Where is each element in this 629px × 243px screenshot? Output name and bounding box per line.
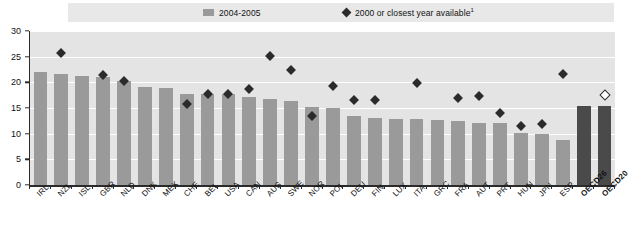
x-tick-mark-esp xyxy=(551,186,552,189)
x-tick-mark-fin xyxy=(363,186,364,189)
plot-area xyxy=(29,31,615,185)
diamond-marker-oecd20 xyxy=(599,90,610,101)
diamond-marker-can xyxy=(244,84,254,94)
y-tick-label-5: 5 xyxy=(16,154,21,164)
bar-esp xyxy=(556,140,570,185)
legend-bar-swatch-icon xyxy=(203,9,214,16)
legend-item-diamond: 2000 or closest year available1 xyxy=(343,3,474,22)
bar-can xyxy=(242,97,256,185)
x-tick-mark-end xyxy=(614,186,615,189)
x-tick-mark-bel xyxy=(196,186,197,189)
x-tick-mark-mex xyxy=(154,186,155,189)
bar-hun xyxy=(514,133,528,185)
x-tick-mark-fra xyxy=(447,186,448,189)
bar-deu xyxy=(347,116,361,185)
x-tick-mark-swe xyxy=(280,186,281,189)
diamond-marker-aut xyxy=(474,91,484,101)
bar-aus xyxy=(263,99,277,185)
y-axis: 051015202530 xyxy=(0,31,29,185)
x-axis-labels: IRLNZLISLGBRNLDDNKMEXCHEBELUSACANAUSSWEN… xyxy=(0,186,618,243)
y-tick-label-10: 10 xyxy=(11,129,21,139)
gridline-y-25 xyxy=(30,57,615,58)
legend-item-bar: 2004-2005 xyxy=(203,3,261,22)
bar-nld xyxy=(117,81,131,185)
bar-usa xyxy=(222,94,236,185)
x-tick-mark-nzl xyxy=(50,186,51,189)
y-tick-label-15: 15 xyxy=(11,103,21,113)
x-tick-mark-ita xyxy=(405,186,406,189)
x-tick-mark-aut xyxy=(468,186,469,189)
diamond-marker-prt xyxy=(495,108,505,118)
diamond-marker-jpn xyxy=(537,119,547,129)
bar-jpn xyxy=(535,134,549,185)
diamond-marker-fra xyxy=(453,93,463,103)
x-tick-mark-nor xyxy=(301,186,302,189)
y-tick-label-30: 30 xyxy=(11,26,21,36)
x-tick-mark-deu xyxy=(342,186,343,189)
diamond-marker-swe xyxy=(286,65,296,75)
x-tick-mark-prt xyxy=(489,186,490,189)
diamond-marker-fin xyxy=(370,95,380,105)
diamond-marker-deu xyxy=(349,95,359,105)
bar-dnk xyxy=(138,87,152,185)
x-tick-mark-gbr xyxy=(92,186,93,189)
bar-pol xyxy=(326,108,340,186)
bar-grc xyxy=(431,120,445,185)
x-tick-mark-pol xyxy=(322,186,323,189)
legend-bar-label: 2004-2005 xyxy=(219,8,261,18)
x-tick-mark-nld xyxy=(113,186,114,189)
bar-lux xyxy=(389,119,403,185)
bar-aut xyxy=(472,123,486,185)
x-tick-mark-che xyxy=(175,186,176,189)
chart-legend: 2004-2005 2000 or closest year available… xyxy=(68,3,614,22)
bar-prt xyxy=(493,123,507,185)
x-tick-mark-oecd20 xyxy=(593,186,594,189)
bar-irl xyxy=(34,72,48,185)
x-tick-mark-can xyxy=(238,186,239,189)
diamond-marker-esp xyxy=(558,69,568,79)
x-tick-mark-dnk xyxy=(133,186,134,189)
bar-mex xyxy=(159,88,173,185)
x-axis-label-irl: IRL xyxy=(35,183,51,199)
diamond-marker-hun xyxy=(516,122,526,132)
x-tick-mark-aus xyxy=(259,186,260,189)
diamond-marker-ita xyxy=(412,78,422,88)
x-tick-mark-oecd26 xyxy=(572,186,573,189)
bar-gbr xyxy=(96,77,110,185)
bar-isl xyxy=(75,76,89,185)
y-tick-label-25: 25 xyxy=(11,52,21,62)
x-tick-mark-jpn xyxy=(530,186,531,189)
x-axis-label-ita: ITA xyxy=(412,183,427,198)
x-tick-mark-isl xyxy=(71,186,72,189)
x-tick-mark-grc xyxy=(426,186,427,189)
legend-diamond-label: 2000 or closest year available1 xyxy=(355,7,474,18)
x-tick-mark-lux xyxy=(384,186,385,189)
bar-ita xyxy=(410,119,424,185)
x-tick-mark-hun xyxy=(510,186,511,189)
x-axis-label-isl: ISL xyxy=(77,183,92,198)
bar-swe xyxy=(284,101,298,185)
x-tick-mark-irl xyxy=(29,186,30,189)
y-tick-label-20: 20 xyxy=(11,77,21,87)
bar-nzl xyxy=(54,74,68,185)
plot-inner xyxy=(30,31,615,185)
bar-oecd26 xyxy=(577,106,591,185)
diamond-marker-aus xyxy=(265,51,275,61)
legend-diamond-marker-icon xyxy=(342,8,352,18)
bar-fra xyxy=(451,121,465,185)
gridline-y-30 xyxy=(30,31,615,32)
bar-fin xyxy=(368,118,382,185)
bar-bel xyxy=(201,94,215,185)
x-tick-mark-usa xyxy=(217,186,218,189)
